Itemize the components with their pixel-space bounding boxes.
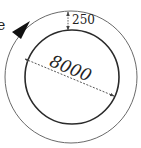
direction-arrow-icon — [12, 21, 30, 39]
inner-diameter-label: 8000 — [47, 51, 95, 86]
ring-thickness-label: 250 — [72, 13, 95, 27]
ring-diagram: 8000 250 e — [0, 0, 141, 148]
partial-label-e: e — [0, 17, 5, 33]
